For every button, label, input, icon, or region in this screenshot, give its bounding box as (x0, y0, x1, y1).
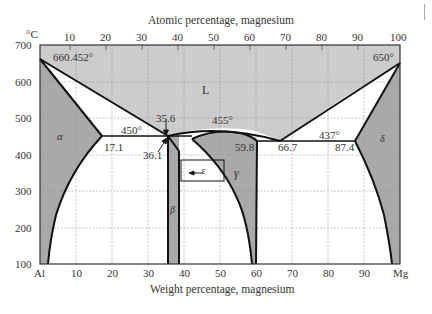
y-tick: 200 (15, 223, 32, 234)
x-tick-atomic: 70 (280, 32, 291, 43)
x-tick-atomic: 80 (316, 32, 327, 43)
x-tick-weight: 50 (215, 268, 226, 279)
x-tick-weight: 30 (143, 268, 154, 279)
x-tick-weight: 20 (107, 268, 118, 279)
al-melting-label: 660.452° (53, 52, 93, 63)
liquid-label: L (202, 84, 209, 96)
eutectic-right-temp-label: 437° (319, 130, 340, 141)
x-tick-weight: 70 (287, 268, 298, 279)
alpha-label: α (57, 131, 63, 142)
x-tick-atomic: 10 (64, 32, 75, 43)
gamma-left-label: 59.8 (235, 142, 254, 153)
epsilon-label: ← ε (189, 166, 205, 176)
x-tick-weight: 90 (359, 268, 370, 279)
x-tick-atomic: 100 (390, 32, 407, 43)
delta-solubility-label: 87.4 (335, 142, 354, 153)
x-tick-weight: 40 (179, 268, 190, 279)
y-tick: 700 (15, 40, 32, 51)
top-axis-title: Atomic percentage, magnesium (148, 15, 294, 27)
x-tick-atomic: 60 (244, 32, 255, 43)
x-tick-atomic: 20 (100, 32, 111, 43)
x-tick-atomic: 30 (136, 32, 147, 43)
x-tick-atomic: 40 (172, 32, 183, 43)
x-tick-weight: 60 (251, 268, 262, 279)
eutectic-left-temp-label: 450° (121, 125, 142, 136)
mg-melting-label: 650° (373, 52, 394, 63)
y-tick: 500 (15, 113, 32, 124)
gamma-label: γ (234, 167, 239, 179)
x-tick-atomic: 90 (352, 32, 363, 43)
y-tick: 100 (15, 259, 32, 270)
y-tick: 300 (15, 186, 32, 197)
bottom-axis-title: Weight percentage, magnesium (150, 284, 294, 296)
alpha-solubility-label: 17.1 (104, 142, 123, 153)
y-tick: 600 (15, 77, 32, 88)
x-tick-weight: 80 (323, 268, 334, 279)
beta-comp-label: 36.1 (143, 150, 162, 161)
x-tick-weight: Mg (393, 268, 408, 279)
beta-label: β (170, 205, 175, 215)
congruent-max-label: 455° (212, 115, 233, 126)
x-tick-atomic: 50 (208, 32, 219, 43)
edge-mark (424, 4, 425, 20)
y-tick: 400 (15, 150, 32, 161)
eutectic-right-comp-label: 66.7 (278, 142, 297, 153)
x-tick-weight: 10 (71, 268, 82, 279)
x-tick-weight: Al (34, 268, 45, 279)
eutectic-left-comp-label: 35.6 (156, 113, 175, 124)
delta-label: δ (380, 134, 385, 144)
